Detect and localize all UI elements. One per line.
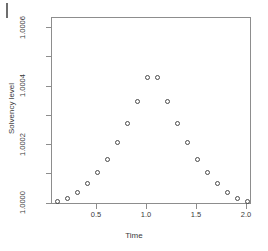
- data-point: [245, 199, 250, 204]
- data-point: [85, 181, 90, 186]
- data-point: [225, 190, 230, 195]
- data-point: [195, 157, 200, 162]
- x-axis-tick-label: 2.0: [226, 210, 266, 219]
- page-edge-scan-mark: [6, 3, 8, 18]
- data-point: [235, 196, 240, 201]
- data-point: [135, 99, 140, 104]
- data-point: [95, 170, 100, 175]
- x-axis-tick-label: 1.0: [126, 210, 166, 219]
- scatter-plot-figure: 0.51.01.52.01.00001.00021.00041.0006 Sol…: [0, 0, 268, 251]
- data-point: [215, 181, 220, 186]
- x-axis-tick-label: 1.5: [176, 210, 216, 219]
- y-axis-tick-label: 1.0000: [18, 181, 27, 225]
- y-axis-tick-label: 1.0002: [18, 122, 27, 166]
- data-point: [75, 190, 80, 195]
- data-point: [185, 140, 190, 145]
- x-axis-tick: [96, 204, 97, 209]
- x-axis-tick: [196, 204, 197, 209]
- x-axis-tick-label: 0.5: [76, 210, 116, 219]
- plot-area: [51, 17, 251, 204]
- y-axis-tick-label: 1.0006: [18, 5, 27, 49]
- x-axis-tick: [146, 204, 147, 209]
- data-point: [205, 170, 210, 175]
- data-point: [165, 99, 170, 104]
- y-axis-tick-label: 1.0004: [18, 64, 27, 108]
- data-point: [65, 196, 70, 201]
- x-axis-title: Time: [0, 231, 268, 240]
- y-axis-title: Solvency level: [7, 59, 16, 159]
- data-point: [125, 121, 130, 126]
- data-point: [55, 199, 60, 204]
- data-point: [155, 75, 160, 80]
- x-axis-tick: [246, 204, 247, 209]
- data-point: [145, 75, 150, 80]
- data-point: [115, 140, 120, 145]
- data-point: [105, 157, 110, 162]
- data-point: [175, 121, 180, 126]
